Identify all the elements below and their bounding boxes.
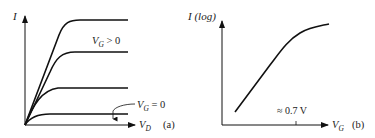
panel-a-x-label: VD bbox=[139, 119, 151, 133]
panel-b-curve bbox=[235, 24, 329, 112]
panel-a-vg-zero-label: VG = 0 bbox=[137, 99, 165, 113]
vgb-sub: G bbox=[338, 124, 344, 133]
panel-b-tag: (b) bbox=[352, 119, 365, 131]
panel-a: I VG > 0 VG = 0 VD (a) bbox=[12, 10, 175, 133]
figure-canvas: I VG > 0 VG = 0 VD (a) I (log) ≈ 0.7 V V… bbox=[0, 0, 375, 138]
panel-b-y-label: I (log) bbox=[187, 10, 216, 23]
panel-b-x-label: VG bbox=[332, 119, 344, 133]
panel-a-vg-positive-label: VG > 0 bbox=[92, 35, 120, 49]
vg0-rel: = 0 bbox=[149, 99, 165, 110]
vg-rel: > 0 bbox=[104, 35, 120, 46]
panel-a-vg0-pointer bbox=[113, 104, 135, 119]
panel-a-tag: (a) bbox=[163, 119, 175, 131]
panel-b-threshold-label: ≈ 0.7 V bbox=[277, 105, 308, 116]
ylog-text: I (log) bbox=[187, 10, 216, 23]
panel-a-curve-4 bbox=[25, 114, 128, 125]
panel-a-y-label: I bbox=[12, 10, 18, 22]
vd-sub: D bbox=[144, 124, 151, 133]
panel-b: I (log) ≈ 0.7 V VG (b) bbox=[187, 10, 365, 133]
